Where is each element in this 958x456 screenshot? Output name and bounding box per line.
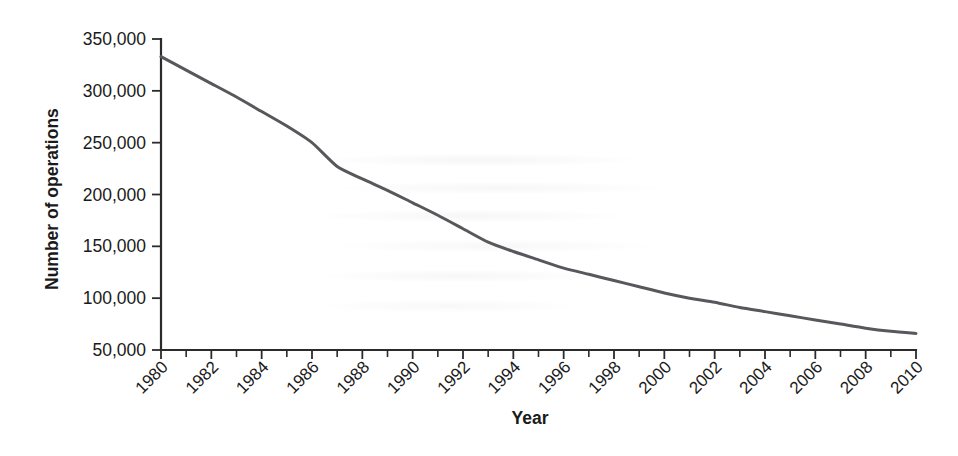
chart-figure: 50,000100,000150,000200,000250,000300,00…: [0, 0, 958, 456]
x-tick-label: 1988: [333, 357, 373, 397]
x-tick-label: 1994: [484, 357, 524, 397]
x-tick-label: 1998: [585, 357, 625, 397]
x-tick-label: 2006: [786, 357, 826, 397]
y-axis: 50,000100,000150,000200,000250,000300,00…: [83, 29, 161, 360]
y-tick-label: 200,000: [83, 185, 147, 205]
y-tick-label: 150,000: [83, 236, 147, 256]
x-tick-label: 1980: [132, 357, 172, 397]
x-tick-label: 2000: [635, 357, 675, 397]
x-tick-label: 1984: [232, 357, 272, 397]
x-tick-label: 2004: [736, 357, 776, 397]
x-axis: 1980198219841986198819901992199419961998…: [132, 350, 927, 398]
axis-spines: [161, 39, 916, 350]
x-tick-label: 1982: [182, 357, 222, 397]
x-tick-label: 2010: [887, 357, 927, 397]
y-tick-label: 300,000: [83, 81, 147, 101]
data-series-line: [161, 57, 916, 334]
x-tick-label: 2002: [685, 357, 725, 397]
x-tick-label: 1996: [534, 357, 574, 397]
line-chart: 50,000100,000150,000200,000250,000300,00…: [0, 0, 958, 456]
x-tick-label: 1990: [383, 357, 423, 397]
x-tick-label: 1986: [283, 357, 323, 397]
y-axis-title: Number of operations: [42, 108, 62, 290]
y-tick-label: 250,000: [83, 133, 147, 153]
x-tick-label: 2008: [836, 357, 876, 397]
y-tick-label: 350,000: [83, 29, 147, 49]
y-tick-label: 100,000: [83, 288, 147, 308]
x-axis-title: Year: [512, 408, 549, 428]
x-tick-label: 1992: [434, 357, 474, 397]
y-tick-label: 50,000: [92, 340, 146, 360]
